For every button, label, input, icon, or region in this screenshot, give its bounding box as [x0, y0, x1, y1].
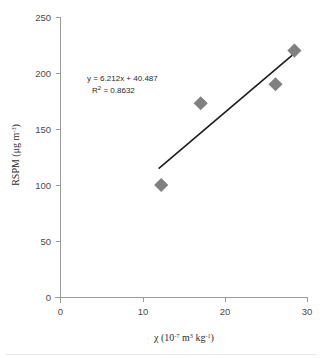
scatter-chart: 0 50 100 150 200 250 0 10 20 30 y = 6.21…: [0, 0, 323, 358]
y-tick-label: 50: [40, 236, 51, 247]
y-axis-title-close: ): [10, 124, 22, 127]
r-squared-value: = 0.8632: [101, 86, 135, 95]
x-axis-close: ): [211, 332, 214, 344]
y-axis-title-main: RSPM (μg m: [10, 132, 22, 185]
x-tick-label: 10: [138, 306, 149, 317]
y-tick-label: 200: [35, 68, 51, 79]
x-axis-symbol: χ (10: [153, 332, 174, 344]
x-axis-unit: kg: [193, 332, 206, 343]
x-tick-label: 20: [220, 306, 231, 317]
chart-canvas: 0 50 100 150 200 250 0 10 20 30 y = 6.21…: [0, 0, 323, 358]
y-tick-label: 150: [35, 124, 51, 135]
trendline-equation: y = 6.212x + 40.487: [87, 74, 158, 83]
y-axis-title: RSPM (μg m-3): [10, 124, 22, 186]
footer-divider: [6, 354, 316, 355]
x-axis-title: χ (10-7 m3 kg-1): [153, 332, 214, 344]
y-tick-label: 250: [35, 12, 51, 23]
x-tick-label: 0: [58, 306, 63, 317]
x-tick-label: 30: [302, 306, 313, 317]
y-tick-label: 0: [46, 292, 51, 303]
y-tick-label: 100: [35, 180, 51, 191]
x-axis-mid: m: [180, 332, 191, 343]
